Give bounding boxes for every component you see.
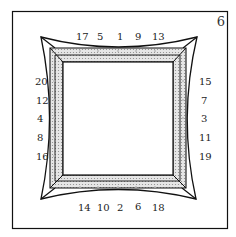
label-top-5: 13 (152, 32, 165, 42)
label-left-1: 20 (35, 77, 48, 87)
label-left-3: 4 (37, 114, 43, 124)
label-top-4: 9 (135, 32, 141, 42)
label-right-3: 3 (201, 114, 207, 124)
label-right-5: 19 (199, 152, 212, 162)
label-bottom-4: 6 (135, 202, 141, 212)
inner-opening (63, 62, 173, 175)
label-left-2: 12 (36, 96, 49, 106)
label-left-4: 8 (37, 133, 43, 143)
label-bottom-1: 14 (78, 203, 91, 213)
label-right-2: 7 (201, 96, 207, 106)
label-bottom-2: 10 (97, 203, 110, 213)
label-right-4: 11 (199, 133, 212, 143)
label-bottom-3: 2 (117, 203, 123, 213)
label-right-1: 15 (199, 77, 212, 87)
label-left-5: 16 (36, 152, 49, 162)
label-bottom-5: 18 (152, 203, 165, 213)
label-top-2: 5 (97, 32, 103, 42)
figure-number: 6 (217, 14, 225, 29)
label-top-1: 17 (76, 32, 89, 42)
label-top-3: 1 (117, 32, 123, 42)
